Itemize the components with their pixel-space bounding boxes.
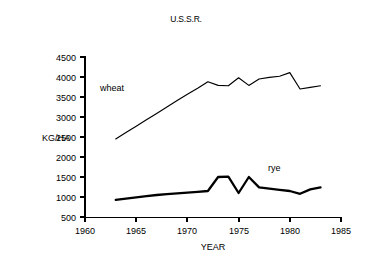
y-tick-label-3500: 3500 <box>56 93 76 103</box>
y-tick-label-1500: 1500 <box>56 173 76 183</box>
chart-container: U.S.S.R. 4500 4000 3500 3000 2500 2000 1… <box>0 0 370 264</box>
line-chart: U.S.S.R. 4500 4000 3500 3000 2500 2000 1… <box>0 0 370 264</box>
series-label-wheat: wheat <box>99 83 125 93</box>
y-tick-label-4000: 4000 <box>56 73 76 83</box>
x-axis-title: YEAR <box>201 242 226 252</box>
series-label-rye: rye <box>268 163 281 173</box>
y-tick-label-3000: 3000 <box>56 113 76 123</box>
x-tick-label-1970: 1970 <box>177 226 197 236</box>
y-tick-label-2000: 2000 <box>56 153 76 163</box>
y-tick-label-500: 500 <box>61 213 76 223</box>
x-tick-label-1965: 1965 <box>126 226 146 236</box>
y-axis-title: KG/HA <box>42 133 70 143</box>
x-tick-label-1985: 1985 <box>331 226 351 236</box>
x-tick-label-1960: 1960 <box>75 226 95 236</box>
x-tick-label-1980: 1980 <box>280 226 300 236</box>
y-tick-label-1000: 1000 <box>56 193 76 203</box>
chart-title: U.S.S.R. <box>170 14 201 24</box>
series-line-rye <box>116 177 321 200</box>
y-tick-label-4500: 4500 <box>56 53 76 63</box>
x-tick-label-1975: 1975 <box>229 226 249 236</box>
series-line-wheat <box>116 73 321 139</box>
